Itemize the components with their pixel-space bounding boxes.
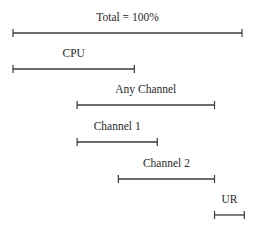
interval-ur: UR — [215, 193, 245, 219]
interval-label: UR — [221, 193, 237, 205]
interval-label: Total = 100% — [96, 11, 159, 23]
interval-cpu: CPU — [13, 47, 134, 73]
interval-any-channel: Any Channel — [77, 83, 214, 109]
interval-diagram: Total = 100%CPUAny ChannelChannel 1Chann… — [0, 0, 261, 227]
interval-channel-2: Channel 2 — [118, 157, 214, 183]
interval-channel-1: Channel 1 — [77, 120, 157, 146]
interval-label: CPU — [62, 47, 85, 59]
interval-label: Channel 1 — [94, 120, 141, 132]
interval-label: Any Channel — [115, 83, 176, 96]
interval-total: Total = 100% — [13, 11, 242, 37]
interval-label: Channel 2 — [143, 157, 190, 169]
